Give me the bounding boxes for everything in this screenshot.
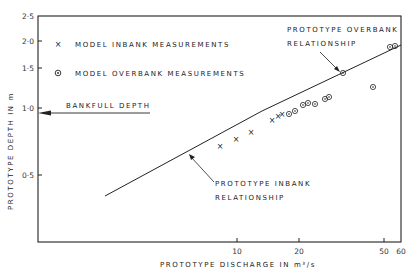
x-axis: 10 20 50 60 PROTOTYPE DISCHARGE IN m³/s: [160, 238, 406, 269]
bankfull-label: BANKFULL DEPTH: [66, 102, 151, 110]
legend-overbank-label: MODEL OVERBANK MEASUREMENTS: [75, 70, 245, 78]
y-axis-label: PROTOTYPE DEPTH IN m: [7, 92, 15, 210]
x-marker-icon: ×: [55, 40, 62, 49]
depth-discharge-chart: 0·5 1·0 1·5 2·0 2·5 PROTOTYPE DEPTH IN m…: [0, 0, 418, 276]
svg-text:×: ×: [248, 128, 255, 137]
overbank-annotation-line2: RELATIONSHIP: [287, 40, 357, 48]
y-tick-label: 1·0: [22, 104, 34, 113]
x-axis-label: PROTOTYPE DISCHARGE IN m³/s: [160, 261, 316, 269]
svg-text:×: ×: [233, 135, 240, 144]
overbank-annotation-line1: PROTOTYPE OVERBANK: [287, 26, 398, 34]
y-tick-label: 2·0: [22, 37, 34, 46]
overbank-relationship-annotation: PROTOTYPE OVERBANK RELATIONSHIP: [287, 26, 398, 72]
x-tick-label: 20: [294, 247, 304, 256]
x-tick-label: 10: [232, 247, 242, 256]
x-tick-label: 60: [396, 247, 406, 256]
y-tick-label: 1·5: [22, 64, 34, 73]
legend-inbank-label: MODEL INBANK MEASUREMENTS: [75, 41, 230, 49]
svg-text:×: ×: [279, 110, 286, 119]
bankfull-depth-annotation: BANKFULL DEPTH: [38, 102, 151, 116]
plot-frame: [38, 16, 401, 242]
prototype-overbank-line: [262, 45, 401, 111]
legend: × MODEL INBANK MEASUREMENTS MODEL OVERBA…: [55, 40, 246, 78]
y-axis: 0·5 1·0 1·5 2·0 2·5 PROTOTYPE DEPTH IN m: [7, 12, 42, 210]
y-tick-label: 0·5: [22, 171, 34, 180]
inbank-relationship-annotation: PROTOTYPE INBANK RELATIONSHIP: [189, 154, 311, 202]
circle-dot-marker-icon: [55, 70, 61, 76]
arrow-icon: [189, 154, 195, 160]
x-tick-label: 50: [379, 247, 389, 256]
svg-text:×: ×: [217, 142, 224, 151]
inbank-annotation-line1: PROTOTYPE INBANK: [215, 180, 311, 188]
y-tick-label: 2·5: [22, 12, 34, 21]
arrow-left-icon: [38, 111, 51, 116]
inbank-annotation-line2: RELATIONSHIP: [215, 194, 285, 202]
